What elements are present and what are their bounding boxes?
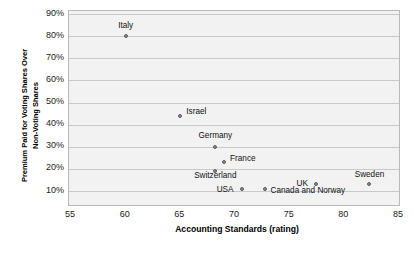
y-axis-tick-label: 60% <box>34 75 64 84</box>
gridline <box>69 14 399 15</box>
data-point <box>178 114 182 118</box>
scatter-chart: Premium Paid for Voting Shares Over Non-… <box>0 0 414 257</box>
x-axis-tick-label: 85 <box>378 209 414 219</box>
plot-area: ItalyIsraelGermanyFranceSwitzerlandUSACa… <box>68 10 400 206</box>
gridline <box>69 80 399 81</box>
data-point-label: Sweden <box>355 170 385 179</box>
gridline <box>69 147 399 148</box>
x-axis-tick-label: 55 <box>50 209 90 219</box>
y-axis-tick-label: 20% <box>34 163 64 172</box>
x-axis-tick-label: 65 <box>159 209 199 219</box>
y-axis-tick-label: 50% <box>34 97 64 106</box>
y-axis-tick-label: 10% <box>34 186 64 195</box>
y-axis-title-line-1: Premium Paid for Voting Shares Over <box>20 16 31 216</box>
data-point <box>213 145 217 149</box>
data-point <box>367 182 371 186</box>
y-axis-tick-label: 40% <box>34 119 64 128</box>
data-point-label: UK <box>69 179 308 188</box>
data-point-label: France <box>230 154 255 163</box>
data-point <box>222 160 226 164</box>
data-point-label: Italy <box>118 21 133 30</box>
data-point-label: Germany <box>198 131 232 140</box>
gridline <box>69 125 399 126</box>
y-axis-tick-label: 80% <box>34 31 64 40</box>
y-axis-tick-label: 30% <box>34 141 64 150</box>
x-axis-tick-label: 75 <box>269 209 309 219</box>
y-axis-tick-label: 70% <box>34 53 64 62</box>
x-axis-tick-label: 60 <box>105 209 145 219</box>
y-axis-tick-label: 90% <box>34 9 64 18</box>
x-axis-tick-label: 70 <box>214 209 254 219</box>
x-axis-title: Accounting Standards (rating) <box>0 224 414 234</box>
data-point <box>314 182 318 186</box>
gridline <box>69 103 399 104</box>
x-axis-tick-labels: 55606570758085 <box>0 209 414 223</box>
gridline <box>69 36 399 37</box>
x-axis-tick-label: 80 <box>323 209 363 219</box>
data-point-label: Israel <box>186 107 206 116</box>
gridline <box>69 58 399 59</box>
data-point <box>124 34 128 38</box>
